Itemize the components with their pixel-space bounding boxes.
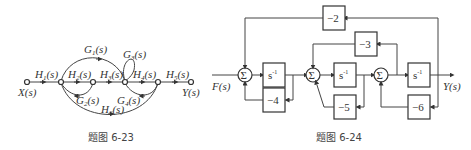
sum-symbol: Σ bbox=[377, 69, 383, 81]
caption-6-24: 题图 6-24 bbox=[316, 132, 362, 143]
gain-minus2-label: −2 bbox=[327, 12, 339, 24]
node-1 bbox=[59, 80, 64, 85]
diagram-canvas: X(s) Y(s) H1(s) H2(s) H3(s) H4(s) H5(s) … bbox=[0, 0, 471, 150]
gain-minus5-label: −5 bbox=[338, 101, 350, 113]
node-3 bbox=[123, 80, 128, 85]
node-input bbox=[25, 80, 30, 85]
gain-minus4-label: −4 bbox=[267, 94, 279, 106]
label-h6: H6(s) bbox=[100, 103, 124, 117]
label-h2: H2(s) bbox=[67, 68, 91, 82]
integrator-block-3 bbox=[408, 63, 430, 87]
label-h4: H4(s) bbox=[132, 68, 156, 82]
label-g3: G3(s) bbox=[123, 48, 146, 62]
gain-minus3-label: −3 bbox=[359, 38, 371, 50]
output-label: Y(s) bbox=[443, 80, 461, 93]
node-4 bbox=[156, 80, 161, 85]
sum-symbol: Σ bbox=[309, 69, 315, 81]
input-label: X(s) bbox=[17, 86, 37, 99]
label-h3: H3(s) bbox=[99, 68, 123, 82]
label-g1: G1(s) bbox=[84, 43, 107, 57]
node-output bbox=[189, 80, 194, 85]
label-g2: G2(s) bbox=[76, 94, 99, 108]
gain-minus6-label: −6 bbox=[412, 101, 424, 113]
node-2 bbox=[91, 80, 96, 85]
caption-6-23: 题图 6-23 bbox=[88, 132, 134, 143]
integrator-block-2 bbox=[334, 63, 356, 87]
integrator-block-1 bbox=[263, 63, 285, 87]
label-h5: H5(s) bbox=[165, 68, 189, 82]
output-label: Y(s) bbox=[182, 86, 200, 99]
block-diagram: F(s) Σ s-1 −4 Σ s-1 −5 Σ bbox=[211, 6, 461, 143]
signal-flow-graph: X(s) Y(s) H1(s) H2(s) H3(s) H4(s) H5(s) … bbox=[17, 43, 200, 143]
input-label: F(s) bbox=[211, 80, 231, 93]
label-h1: H1(s) bbox=[34, 68, 58, 82]
sum-symbol: Σ bbox=[241, 69, 247, 81]
